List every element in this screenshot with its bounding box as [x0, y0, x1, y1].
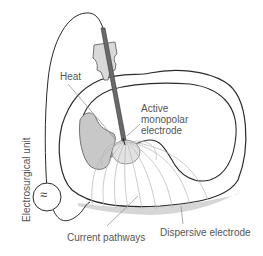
- alternating-current-icon: ≈: [40, 189, 47, 200]
- electrosurgery-diagram: [0, 0, 263, 256]
- heat-zone: [79, 113, 115, 169]
- label-active-line-2: monopolar: [141, 114, 201, 125]
- label-heat: Heat: [60, 71, 81, 82]
- label-active-line-3: electrode: [141, 125, 201, 136]
- label-active-monopolar-electrode: Active monopolar electrode: [141, 103, 201, 136]
- label-dispersive-electrode: Dispersive electrode: [160, 227, 251, 238]
- label-electrosurgical-unit: Electrosurgical unit: [21, 138, 32, 222]
- label-current-pathways: Current pathways: [67, 232, 145, 243]
- label-active-line-1: Active: [141, 103, 201, 114]
- leader-active: [127, 124, 140, 136]
